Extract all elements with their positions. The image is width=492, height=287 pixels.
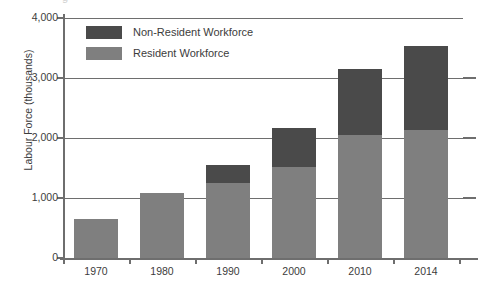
x-tick-5 <box>393 258 395 264</box>
labour-force-stacked-bar-chart: g <box>0 0 492 287</box>
bar-segment-nonresident-2014 <box>404 46 448 130</box>
legend-label-non-resident-workforce: Non-Resident Workforce <box>133 27 253 38</box>
right-tick-3000 <box>463 77 476 79</box>
legend-label-resident-workforce: Resident Workforce <box>133 48 229 59</box>
y-tick-label-0: 0 <box>52 252 58 263</box>
right-tick-2000 <box>463 137 476 139</box>
x-tick-2 <box>195 258 197 264</box>
cropped-title-glyph: g <box>62 0 68 3</box>
x-axis-label-2010: 2010 <box>330 266 390 277</box>
x-axis-label-2000: 2000 <box>264 266 324 277</box>
legend-swatch-non-resident-workforce <box>86 26 122 39</box>
y-tick-label-2000: 2,000 <box>32 132 58 143</box>
right-tick-1000 <box>463 197 476 199</box>
x-axis-label-1990: 1990 <box>198 266 258 277</box>
legend-item-resident-workforce[interactable]: Resident Workforce <box>86 45 253 62</box>
x-tick-1 <box>129 258 131 264</box>
x-axis-label-2014: 2014 <box>396 266 456 277</box>
x-axis-label-1980: 1980 <box>132 266 192 277</box>
bar-segment-resident-2014 <box>404 130 448 258</box>
y-axis-title: Labour Force (thousands) <box>22 35 34 185</box>
legend-swatch-resident-workforce <box>86 47 122 60</box>
bar-segment-nonresident-1990 <box>206 165 250 183</box>
x-axis-line <box>60 258 478 260</box>
bar-segment-resident-2010 <box>338 135 382 258</box>
bar-1990[interactable] <box>206 165 250 258</box>
x-tick-4 <box>327 258 329 264</box>
bar-2014[interactable] <box>404 46 448 258</box>
x-tick-start <box>63 258 65 264</box>
x-axis-label-1970: 1970 <box>66 266 126 277</box>
bar-segment-nonresident-2000 <box>272 128 316 167</box>
y-tick-label-4000: 4,000 <box>32 12 58 23</box>
bar-2000[interactable] <box>272 128 316 258</box>
bar-1980[interactable] <box>140 193 184 258</box>
x-tick-end <box>459 258 461 264</box>
y-tick-label-3000: 3,000 <box>32 72 58 83</box>
bar-segment-nonresident-2010 <box>338 69 382 135</box>
x-tick-3 <box>261 258 263 264</box>
legend-item-non-resident-workforce[interactable]: Non-Resident Workforce <box>86 24 253 41</box>
bar-segment-resident-2000 <box>272 167 316 258</box>
bar-1970[interactable] <box>74 219 118 258</box>
bar-segment-resident-1970 <box>74 219 118 258</box>
gridline-4000 <box>64 18 463 19</box>
bar-2010[interactable] <box>338 69 382 258</box>
y-tick-label-1000: 1,000 <box>32 192 58 203</box>
y-axis-line <box>63 14 65 262</box>
cropped-title-remnant: g <box>0 0 492 4</box>
legend: Non-Resident Workforce Resident Workforc… <box>86 24 253 66</box>
bar-segment-resident-1980 <box>140 193 184 258</box>
bar-segment-resident-1990 <box>206 183 250 258</box>
